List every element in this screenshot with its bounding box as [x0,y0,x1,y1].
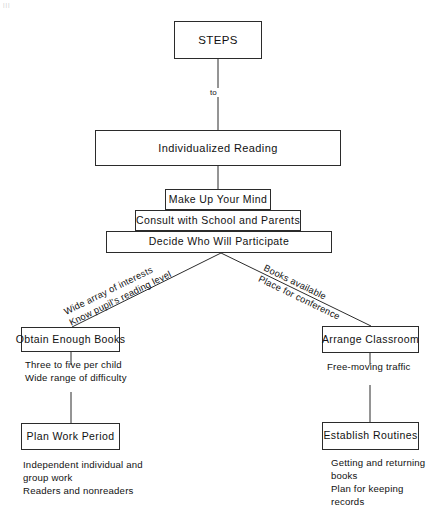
node-individualized-reading-label: Individualized Reading [158,142,278,154]
node-establish-routines[interactable]: Establish Routines [322,422,419,450]
node-decide-who-will-participate[interactable]: Decide Who Will Participate [106,231,332,253]
node-individualized-reading[interactable]: Individualized Reading [95,130,341,166]
connector-label-to: to [208,88,219,97]
node-plan-work-period[interactable]: Plan Work Period [21,423,120,450]
node-obtain-enough-books[interactable]: Obtain Enough Books [21,327,120,352]
page-corner-mark: ||| [3,2,11,8]
node-obtain-enough-books-label: Obtain Enough Books [16,334,126,346]
note-establish-routines: Getting and returning books Plan for kee… [331,457,443,509]
node-consult-school-parents[interactable]: Consult with School and Parents [135,210,301,231]
node-steps-label: STEPS [198,34,238,47]
note-plan-work-period: Independent individual and group work Re… [23,459,213,498]
node-establish-routines-label: Establish Routines [323,430,417,442]
node-make-up-your-mind[interactable]: Make Up Your Mind [165,189,271,210]
node-arrange-classroom[interactable]: Arrange Classroom [322,326,419,353]
flowchart-diagram: ||| to STEPS Individualized Reading Make… [0,0,443,525]
node-plan-work-period-label: Plan Work Period [27,431,115,443]
note-obtain-enough-books: Three to five per child Wide range of di… [25,359,190,385]
node-steps[interactable]: STEPS [174,21,262,59]
edge-label-right-branch: Books available Place for conference [256,262,347,323]
edge-label-left-branch: Wide array of interests Know pupil's rea… [62,257,174,328]
node-consult-school-parents-label: Consult with School and Parents [136,215,300,227]
node-make-up-your-mind-label: Make Up Your Mind [169,194,267,206]
node-arrange-classroom-label: Arrange Classroom [322,334,419,346]
node-decide-who-will-participate-label: Decide Who Will Participate [149,236,289,248]
note-arrange-classroom: Free-moving traffic [327,361,443,374]
